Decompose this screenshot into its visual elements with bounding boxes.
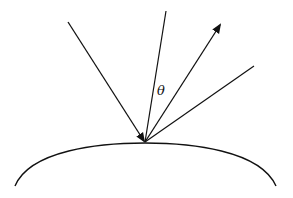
outer-ray [145,66,254,142]
incident-ray [68,22,144,141]
theta-label: θ [157,83,165,98]
normal-line [145,11,166,142]
curved-surface [15,143,276,186]
reflection-diagram: θ [0,0,293,198]
